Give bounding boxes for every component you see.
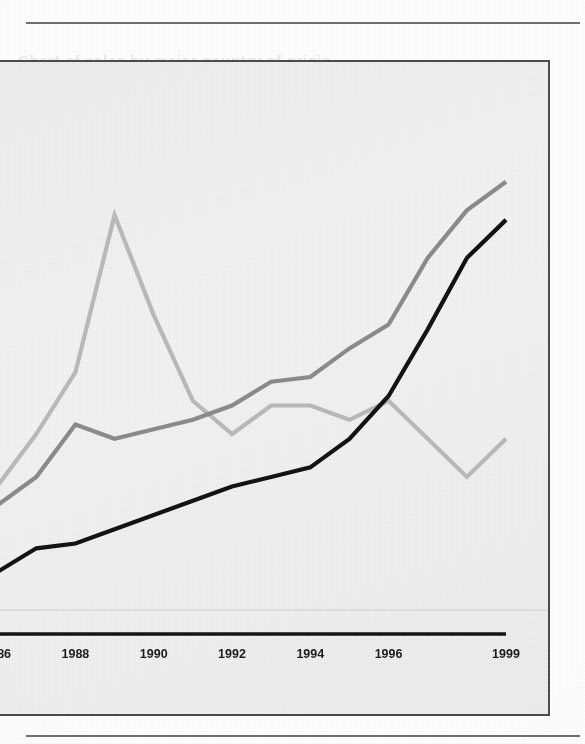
header-rule [26,22,580,24]
x-tick-1994: 1994 [296,647,324,661]
series-line-black-series [0,220,506,587]
line-chart-plot [0,62,550,716]
x-tick-1988: 1988 [62,647,90,661]
footer-rule [26,735,580,737]
x-tick-1990: 1990 [140,647,168,661]
series-group [0,182,506,587]
x-tick-1986: 1986 [0,647,11,661]
x-tick-1996: 1996 [375,647,403,661]
scanned-page: Chart of sales by major country of origi… [0,0,585,744]
x-tick-1999: 1999 [492,647,520,661]
chart-panel [0,60,550,716]
x-tick-1992: 1992 [218,647,246,661]
